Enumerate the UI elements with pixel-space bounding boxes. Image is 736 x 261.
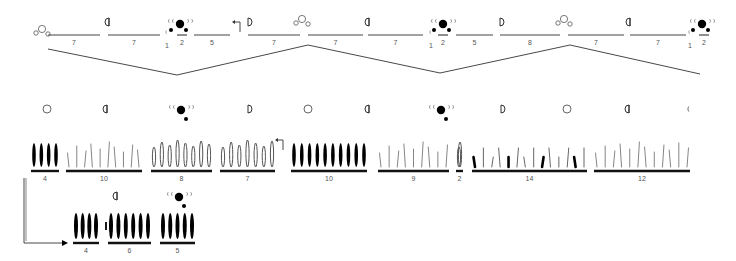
- group-count-label: 5: [176, 247, 180, 254]
- new-moon-dot: [177, 106, 185, 114]
- arrow-head: [275, 138, 278, 142]
- waning-crescent-icon: [452, 105, 454, 109]
- first-quarter-moon-icon: [625, 105, 629, 113]
- mark-group: [596, 142, 689, 167]
- engraved-mark: [645, 147, 647, 167]
- zigzag-line: [48, 45, 700, 75]
- engraved-thick-mark: [74, 213, 78, 239]
- waning-crescent-icon: [191, 19, 193, 23]
- new-moon-dot: [176, 20, 184, 28]
- engraved-mark: [687, 148, 689, 167]
- engraved-mark: [108, 142, 110, 167]
- mark-group: [152, 140, 210, 167]
- half: [501, 105, 505, 113]
- top-segment-label: 7: [132, 39, 136, 46]
- waxing-crescent-icon: [430, 30, 432, 34]
- engraved-mark: [517, 148, 519, 167]
- top-segment-label: 7: [394, 39, 398, 46]
- engraved-thick-mark: [362, 143, 366, 167]
- engraved-loop-mark: [192, 146, 195, 167]
- waning-crescent-icon: [450, 19, 452, 23]
- engraved-mark: [492, 157, 494, 167]
- full-moon-icon: [563, 105, 571, 113]
- new-moon-dot: [437, 106, 445, 114]
- top-segment-label: 5: [473, 39, 477, 46]
- engraved-thick-mark: [168, 213, 172, 239]
- engraved-mark: [549, 148, 551, 167]
- engraved-mark: [91, 144, 93, 167]
- small-dot: [691, 28, 695, 32]
- half: [248, 18, 252, 26]
- first-quarter-moon-icon: [103, 105, 107, 113]
- waxing-crescent-icon: [429, 105, 431, 109]
- arrow-up-left-icon: [232, 20, 240, 32]
- engraved-thick-mark: [116, 213, 120, 239]
- group-count-label: 4: [84, 247, 88, 254]
- engraved-loop-mark: [238, 145, 241, 167]
- engraved-mark: [567, 148, 569, 167]
- engraved-loop-mark: [176, 140, 179, 167]
- engraved-thick-mark: [146, 213, 150, 239]
- small-dot: [444, 117, 448, 121]
- engraved-thick-mark: [316, 143, 320, 167]
- engraved-mark: [574, 157, 576, 167]
- new-moon-dot: [439, 20, 447, 28]
- mark-group: [457, 142, 461, 167]
- last-quarter-moon-icon: [501, 105, 505, 113]
- waxing-crescent-icon: [689, 30, 691, 34]
- half: [103, 105, 107, 113]
- group-count-label: 10: [100, 175, 108, 182]
- engraved-mark: [422, 142, 424, 167]
- engraved-mark: [68, 153, 70, 167]
- full-moon-icon: [43, 105, 51, 113]
- waning-crescent-icon: [186, 192, 188, 196]
- engraved-thick-mark: [87, 213, 91, 239]
- group-count-label: 6: [128, 247, 132, 254]
- engraved-mark: [499, 148, 501, 167]
- new-moon-cluster-icon: [437, 106, 448, 121]
- engraved-mark: [669, 150, 671, 167]
- engraved-mark: [524, 157, 526, 167]
- group-count-label: 7: [246, 175, 250, 182]
- group-count-label: 10: [325, 175, 333, 182]
- first-quarter-moon-icon: [365, 105, 369, 113]
- engraved-thick-mark: [131, 213, 135, 239]
- engraved-mark: [397, 151, 399, 167]
- engraved-mark: [542, 157, 544, 167]
- marker-one-label: 1: [165, 42, 169, 49]
- half: [625, 105, 629, 113]
- first-quarter-moon-icon: [113, 192, 117, 200]
- engraved-mark: [380, 153, 382, 167]
- new-moon-dot: [175, 193, 183, 201]
- half: [248, 105, 252, 113]
- new-moon-cluster-icon: [177, 106, 188, 121]
- engraved-mark: [446, 145, 448, 167]
- top-segment-label: 2: [441, 39, 445, 46]
- engraved-mark: [131, 145, 133, 167]
- full-moon-cluster-icon: [556, 15, 572, 26]
- mark-group: [109, 213, 150, 239]
- last-quarter-moon-icon: [248, 105, 252, 113]
- new-moon-cluster-icon: [175, 193, 186, 208]
- engraved-loop-mark: [254, 143, 257, 167]
- mark-group: [68, 142, 140, 167]
- engraved-mark: [620, 144, 622, 167]
- new-moon-cluster-icon: [432, 20, 451, 32]
- waxing-crescent-icon: [433, 105, 435, 109]
- engraved-loop-mark: [200, 141, 203, 167]
- engraved-thick-mark: [331, 143, 335, 167]
- waning-crescent-icon: [448, 105, 450, 109]
- connector-arrowhead: [62, 240, 68, 246]
- engraved-loop-mark: [168, 145, 171, 167]
- engraved-thick-mark: [139, 213, 143, 239]
- engraved-mark: [138, 150, 140, 167]
- full-moon-cluster-icon: [34, 25, 50, 36]
- small-dot: [432, 28, 436, 32]
- last-quarter-moon-icon: [500, 18, 504, 26]
- full-moon-icon: [304, 105, 312, 113]
- group-count-label: 9: [412, 175, 416, 182]
- mark-group: [474, 148, 585, 167]
- small-dot: [447, 28, 451, 32]
- first-quarter-moon-icon: [105, 18, 109, 26]
- engraved-mark: [428, 147, 430, 167]
